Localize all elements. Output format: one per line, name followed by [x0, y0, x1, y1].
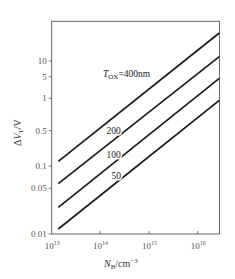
- y-tick-label: 0.01: [31, 229, 47, 239]
- curve-labels: 2002001001005050: [107, 126, 122, 181]
- x-axis-title: NB/cm−3: [103, 257, 138, 271]
- y-axis-ticks: 10510.50.10.050.01: [31, 56, 52, 239]
- y-tick-label: 0.05: [31, 183, 47, 193]
- y-axis-title: ΔVT/V: [12, 118, 25, 146]
- x-tick-label: 1015: [142, 240, 157, 251]
- y-tick-label: 5: [42, 72, 47, 82]
- x-tick-label: 1013: [45, 240, 60, 251]
- y-tick-label: 1: [42, 93, 47, 103]
- y-tick-label: 10: [38, 56, 48, 66]
- y-tick-label: 0.1: [35, 161, 46, 171]
- tox-annotation: TOX=400nm: [103, 69, 151, 81]
- y-tick-label: 0.5: [35, 126, 47, 136]
- x-tick-label: 1016: [191, 240, 206, 251]
- curve-label-50: 50: [112, 171, 122, 181]
- data-series: [58, 33, 219, 229]
- x-tick-label: 1014: [93, 240, 108, 251]
- threshold-shift-chart: 1013101410151016 10510.50.10.050.01 TOX=…: [0, 0, 235, 279]
- curve-label-100: 100: [107, 150, 122, 160]
- curve-label-200: 200: [107, 126, 122, 136]
